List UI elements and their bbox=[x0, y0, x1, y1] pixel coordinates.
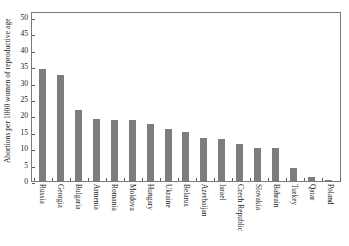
x-tick-label: Israel bbox=[218, 184, 225, 201]
x-tick-mark bbox=[178, 178, 179, 181]
bar-slot bbox=[213, 19, 231, 181]
bar bbox=[218, 139, 225, 181]
bar bbox=[111, 120, 118, 181]
x-tick-mark bbox=[232, 178, 233, 181]
x-tick-label: Ukraine bbox=[164, 184, 171, 208]
x-label-slot: Romania bbox=[105, 183, 123, 245]
x-label-slot: Czech Republic bbox=[231, 183, 249, 245]
bar-series bbox=[32, 19, 340, 181]
bar bbox=[236, 144, 243, 181]
x-tick-label: Moldova bbox=[128, 184, 135, 211]
x-tick-label: Turkey bbox=[290, 184, 297, 205]
y-tick-mark bbox=[32, 117, 35, 118]
x-tick-label: Bahrain bbox=[272, 184, 279, 207]
bar bbox=[165, 129, 172, 181]
y-tick-label: 35 bbox=[20, 63, 28, 71]
y-tick-label: 0 bbox=[24, 178, 28, 186]
x-label-slot: Armenia bbox=[87, 183, 105, 245]
bar bbox=[290, 168, 297, 181]
x-tick-label: Russia bbox=[38, 184, 45, 204]
x-label-slot: Georgia bbox=[51, 183, 69, 245]
bar bbox=[57, 75, 64, 181]
bar-slot bbox=[302, 19, 320, 181]
x-tick-mark bbox=[268, 178, 269, 181]
y-tick-mark bbox=[32, 167, 35, 168]
bar-slot bbox=[123, 19, 141, 181]
x-label-slot: Ukraine bbox=[159, 183, 177, 245]
x-label-slot: Turkey bbox=[285, 183, 303, 245]
bar-slot bbox=[70, 19, 88, 181]
x-label-slot: Israel bbox=[213, 183, 231, 245]
x-label-slot: Bahrain bbox=[267, 183, 285, 245]
y-axis-tick-labels: 05101520253035404550 bbox=[13, 12, 30, 182]
y-tick-mark bbox=[32, 150, 35, 151]
bar bbox=[325, 180, 332, 181]
x-tick-label: Georgia bbox=[56, 184, 63, 208]
bar bbox=[182, 132, 189, 181]
y-tick-mark bbox=[32, 35, 35, 36]
bar bbox=[147, 124, 154, 181]
y-tick-mark bbox=[32, 19, 35, 20]
plot-inner bbox=[32, 19, 340, 181]
x-label-slot: Russia bbox=[33, 183, 51, 245]
bar bbox=[129, 120, 136, 181]
bar-slot bbox=[159, 19, 177, 181]
x-tick-label: Hungary bbox=[146, 184, 153, 210]
x-tick-mark bbox=[70, 178, 71, 181]
x-tick-label: Armenia bbox=[92, 184, 99, 210]
bar bbox=[308, 177, 315, 181]
y-tick-label: 30 bbox=[20, 80, 28, 88]
bar-slot bbox=[106, 19, 124, 181]
bar-slot bbox=[249, 19, 267, 181]
x-tick-mark bbox=[340, 178, 341, 181]
x-tick-label: Belarus bbox=[182, 184, 189, 207]
x-label-slot: Belarus bbox=[177, 183, 195, 245]
bar-slot bbox=[52, 19, 70, 181]
x-tick-mark bbox=[124, 178, 125, 181]
x-tick-mark bbox=[142, 178, 143, 181]
x-tick-mark bbox=[88, 178, 89, 181]
bar-slot bbox=[266, 19, 284, 181]
y-tick-label: 45 bbox=[20, 31, 28, 39]
bar-slot bbox=[88, 19, 106, 181]
y-tick-mark bbox=[32, 134, 35, 135]
x-tick-mark bbox=[160, 178, 161, 181]
bar-slot bbox=[177, 19, 195, 181]
x-tick-label: Bulgaria bbox=[74, 184, 81, 210]
x-tick-mark bbox=[34, 178, 35, 181]
x-tick-mark bbox=[196, 178, 197, 181]
plot-area bbox=[31, 12, 341, 182]
y-tick-label: 20 bbox=[20, 113, 28, 121]
y-tick-mark bbox=[32, 52, 35, 53]
x-label-slot: Azerbaijan bbox=[195, 183, 213, 245]
x-tick-label: Czech Republic bbox=[236, 184, 243, 231]
y-tick-mark bbox=[32, 68, 35, 69]
y-axis-title: Abortions per 1000 women of reproductive… bbox=[0, 0, 14, 182]
x-tick-mark bbox=[106, 178, 107, 181]
y-tick-label: 40 bbox=[20, 47, 28, 55]
x-label-slot: Poland bbox=[321, 183, 339, 245]
x-tick-mark bbox=[304, 178, 305, 181]
x-label-slot: Qatar bbox=[303, 183, 321, 245]
x-tick-label: Romania bbox=[110, 184, 117, 211]
x-axis-tick-labels: RussiaGeorgiaBulgariaArmeniaRomaniaMoldo… bbox=[31, 183, 341, 245]
bar bbox=[93, 119, 100, 181]
x-tick-label: Azerbaijan bbox=[200, 184, 207, 217]
x-tick-label: Slovakia bbox=[254, 184, 261, 210]
bar-slot bbox=[284, 19, 302, 181]
x-label-slot: Slovakia bbox=[249, 183, 267, 245]
x-tick-mark bbox=[322, 178, 323, 181]
y-tick-label: 15 bbox=[20, 129, 28, 137]
bar-slot bbox=[141, 19, 159, 181]
bar bbox=[39, 69, 46, 181]
bar bbox=[254, 148, 261, 181]
x-tick-mark bbox=[214, 178, 215, 181]
x-label-slot: Moldova bbox=[123, 183, 141, 245]
bar bbox=[272, 148, 279, 181]
y-tick-label: 25 bbox=[20, 96, 28, 104]
bar-slot bbox=[34, 19, 52, 181]
bar bbox=[75, 110, 82, 181]
x-tick-mark bbox=[250, 178, 251, 181]
y-tick-label: 50 bbox=[20, 14, 28, 22]
x-label-slot: Hungary bbox=[141, 183, 159, 245]
